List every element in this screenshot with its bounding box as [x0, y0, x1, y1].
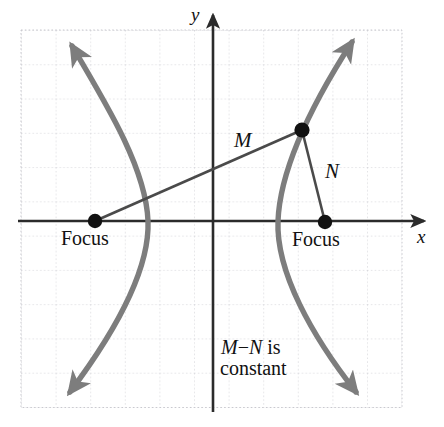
- point-on-curve-dot: [294, 122, 309, 137]
- note-line-1: M−N is: [221, 337, 281, 358]
- grid-background: [21, 30, 402, 408]
- focus-right-label: Focus: [292, 229, 340, 250]
- segment-n-label: N: [325, 160, 339, 182]
- y-axis-label: y: [191, 5, 199, 25]
- segment-m-label: M: [234, 129, 252, 151]
- x-axis-label: x: [417, 227, 425, 247]
- hyperbola-figure: y x Focus Focus M N M−N is constant: [0, 0, 444, 427]
- note-line-2: constant: [220, 358, 287, 379]
- focus-left-label: Focus: [61, 228, 109, 249]
